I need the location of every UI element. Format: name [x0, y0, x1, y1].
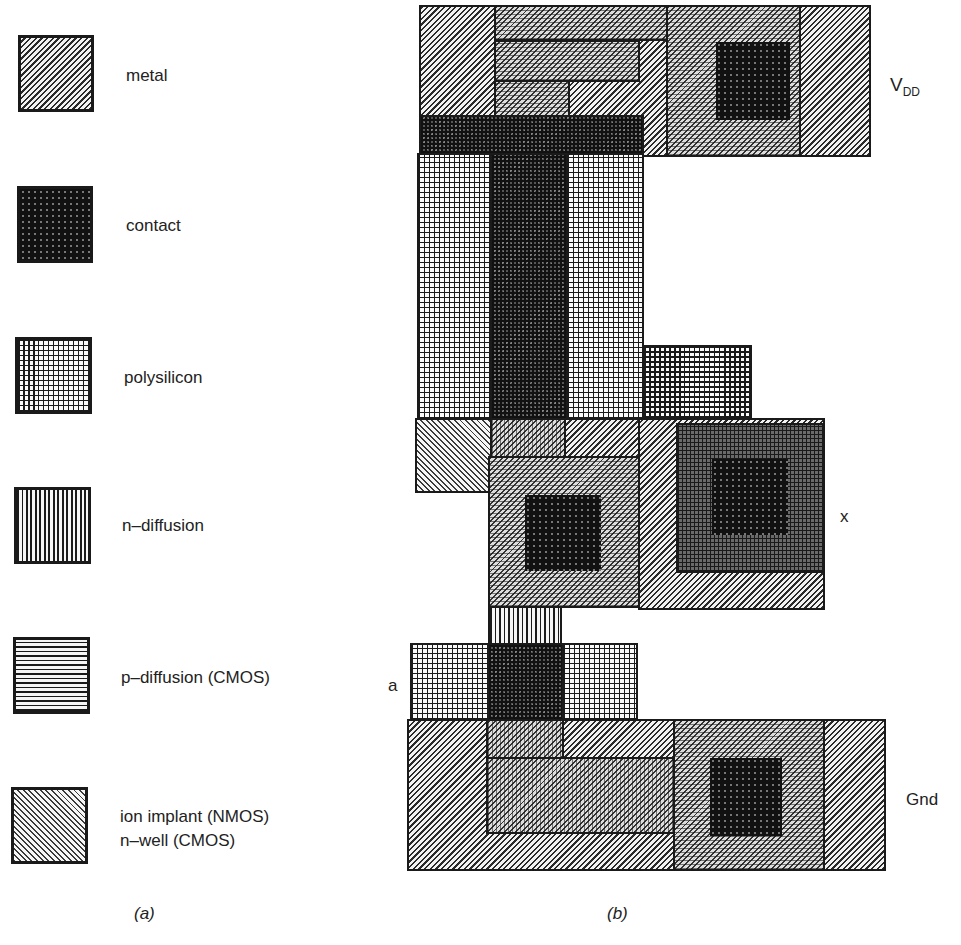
vdd-contact	[716, 42, 790, 120]
legend-swatch-polysilicon	[15, 337, 92, 414]
legend-swatch-implant	[11, 787, 88, 864]
vdd-pdiff-lower	[494, 80, 570, 118]
input-poly-left	[410, 643, 490, 721]
legend-label-polysilicon: polysilicon	[124, 367, 202, 388]
legend-label-implant-line1: ion implant (NMOS)	[120, 806, 269, 827]
ndiff-stub	[488, 606, 562, 646]
gnd-contact	[710, 758, 782, 836]
legend-label-implant-line2: n–well (CMOS)	[120, 830, 235, 851]
output-contact-right	[712, 459, 788, 535]
poly-gate-column	[490, 153, 568, 420]
gnd-label: Gnd	[906, 789, 938, 810]
output-diff-top	[490, 418, 566, 458]
legend-swatch-p-diffusion	[13, 637, 90, 714]
poly-left-column	[417, 153, 493, 420]
output-label-x: x	[840, 506, 849, 527]
panel-label-b: (b)	[607, 903, 628, 924]
poly-right-column	[566, 153, 644, 420]
gnd-ndiff-body	[486, 757, 677, 834]
vdd-label-main: V	[890, 74, 903, 95]
vdd-pdiff-strip-top	[494, 5, 682, 41]
panel-label-a: (a)	[134, 903, 155, 924]
vdd-label: VDD	[890, 74, 920, 103]
legend-swatch-n-diffusion	[14, 487, 91, 564]
input-poly-right	[562, 643, 638, 721]
implant-region	[415, 418, 492, 493]
pmos-channel-band	[419, 115, 644, 155]
legend-label-n-diffusion: n–diffusion	[122, 515, 204, 536]
legend-swatch-contact	[17, 186, 93, 263]
vdd-label-sub: DD	[903, 85, 920, 99]
nmos-gate	[487, 643, 565, 721]
legend-label-metal: metal	[126, 65, 168, 86]
vdd-pdiff-upper	[494, 40, 640, 82]
output-contact-left	[525, 495, 601, 571]
legend-swatch-metal	[18, 35, 94, 112]
legend-label-contact: contact	[126, 215, 181, 236]
input-label-a: a	[388, 675, 397, 696]
legend-label-p-diffusion: p–diffusion (CMOS)	[121, 667, 270, 688]
poly-right-extension	[642, 345, 752, 420]
output-metal-notch	[564, 418, 640, 458]
gnd-ndiff-upper	[486, 719, 564, 759]
